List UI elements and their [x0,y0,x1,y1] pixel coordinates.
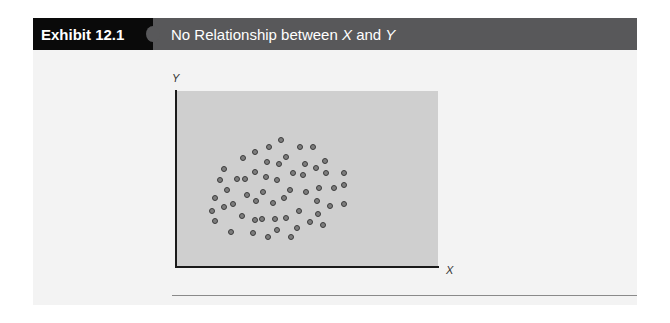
data-point [240,155,246,161]
data-point [288,234,294,240]
data-point [327,203,333,209]
data-point [323,170,329,176]
data-point [315,211,321,217]
data-point [278,137,284,143]
exhibit-number: Exhibit 12.1 [41,26,124,43]
data-point [290,170,296,176]
data-point [341,201,347,207]
data-point [322,158,328,164]
data-point [260,189,266,195]
data-point [259,216,265,222]
data-point [307,219,313,225]
data-point [209,208,215,214]
data-point [281,195,287,201]
y-axis-label: Y [172,72,179,84]
data-point [221,204,227,210]
data-point [263,174,269,180]
x-axis-label: X [446,264,453,276]
data-point [276,161,282,167]
data-point [217,177,223,183]
data-point [287,187,293,193]
data-point [283,215,289,221]
data-point [224,187,230,193]
exhibit-header: Exhibit 12.1 No Relationship between X a… [33,18,637,50]
exhibit-title: No Relationship between X and Y [153,18,395,50]
data-point [313,165,319,171]
data-point [265,234,271,240]
plot-area [176,91,438,267]
data-point [341,182,347,188]
data-point [228,229,234,235]
data-point [250,230,256,236]
data-point [310,144,316,150]
data-point [331,185,337,191]
data-point [253,198,259,204]
title-prefix: No Relationship between [171,26,342,43]
title-mid: and [352,26,385,43]
data-point [244,192,250,198]
tab-notch-decoration [146,26,160,42]
title-var-y: Y [385,26,395,43]
data-point [274,227,280,233]
data-point [239,213,245,219]
data-point [230,201,236,207]
data-point [252,149,258,155]
data-point [242,176,248,182]
data-point [316,185,322,191]
data-point [300,172,306,178]
title-var-x: X [342,26,352,43]
bottom-rule-divider [172,295,637,296]
data-point [341,170,347,176]
data-point [272,216,278,222]
data-point [297,144,303,150]
data-point [274,177,280,183]
data-point [234,176,240,182]
data-point [221,166,227,172]
data-point [264,159,270,165]
data-point [294,225,300,231]
data-point [283,154,289,160]
data-point [320,222,326,228]
data-point [296,208,302,214]
data-point [302,161,308,167]
data-point [252,169,258,175]
data-point [303,189,309,195]
x-axis-line [175,266,439,268]
data-point [252,217,258,223]
data-point [212,218,218,224]
y-axis-line [175,90,177,268]
data-point [212,195,218,201]
data-point [266,144,272,150]
data-point [270,200,276,206]
data-point [314,198,320,204]
exhibit-label-tab: Exhibit 12.1 [33,18,153,50]
